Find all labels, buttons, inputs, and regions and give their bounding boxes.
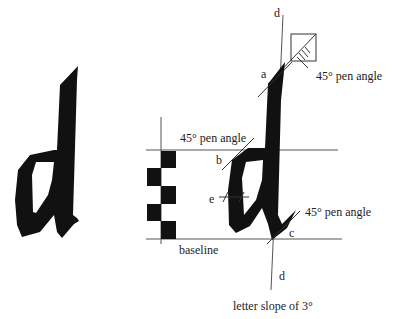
construction-letter-d [228,62,296,240]
sample-letter-d [15,66,79,238]
label-c: c [289,227,294,239]
calligraphy-diagram: d a 45° pen angle 45° pen angle b e 45° … [0,0,406,319]
label-d-top: d [274,7,280,19]
label-d-bottom: d [279,270,285,282]
label-baseline: baseline [179,244,218,256]
label-a: a [261,68,266,80]
label-b: b [216,154,222,166]
diagram-graphics [0,0,406,319]
nib-width-blocks [147,151,176,239]
label-letter-slope: letter slope of 3° [233,300,313,312]
label-e: e [209,193,214,205]
label-pen-angle-top: 45° pen angle [316,70,382,82]
label-pen-angle-right: 45° pen angle [305,206,371,218]
label-pen-angle-left: 45° pen angle [180,132,246,144]
